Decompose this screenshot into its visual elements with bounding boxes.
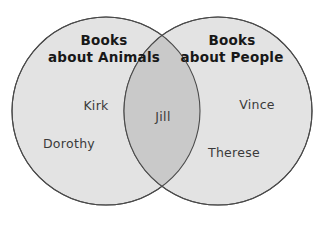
venn-shapes bbox=[0, 0, 324, 234]
venn-diagram-canvas: Books about Animals Books about People K… bbox=[0, 0, 324, 234]
